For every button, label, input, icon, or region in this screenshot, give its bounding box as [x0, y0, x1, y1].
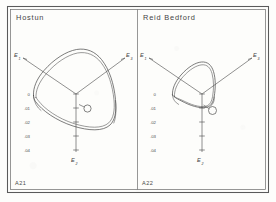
axis-label-e1-left: E — [14, 52, 18, 58]
figure-outer-frame — [8, 7, 269, 193]
panel-left-axis-labels: E 1 E 3 E 2 — [14, 52, 133, 166]
figure-plate: Hostun E 1 — [0, 0, 276, 202]
panel-left-tick-labels: 0 .01 .02 .03 .04 — [24, 92, 31, 153]
axis-label-e2-right: E — [197, 157, 201, 163]
panel-left: Hostun E 1 — [14, 13, 133, 186]
surface-inner-left — [36, 53, 114, 128]
axis-label-e2-left: E — [71, 157, 75, 163]
axis-label-e1-right: E — [140, 52, 144, 58]
origin-marker-leader-left — [79, 105, 84, 108]
tick-label-4-right: .04 — [150, 148, 157, 153]
axis-label-e3-right: E — [253, 52, 257, 58]
panel-right-tag: A22 — [142, 180, 153, 186]
tick-label-3-right: .03 — [150, 134, 157, 139]
axis-e3-line-left — [76, 58, 125, 94]
panel-right-axes — [149, 58, 252, 152]
figure-root: Hostun E 1 — [0, 0, 276, 202]
tick-label-4-left: .04 — [24, 148, 31, 153]
origin-marker-left — [84, 105, 91, 112]
panel-right-axis-labels: E 1 E 3 E 2 — [140, 52, 260, 166]
tick-label-1-left: .01 — [24, 106, 31, 111]
axis-sub-e3-left: 3 — [131, 57, 133, 61]
figure-inner-frame — [11, 10, 266, 190]
tick-label-2-right: .02 — [150, 120, 157, 125]
origin-marker-right — [209, 107, 217, 115]
axis-sub-e1-right: 1 — [145, 57, 147, 61]
axis-sub-e1-left: 1 — [19, 57, 21, 61]
axis-label-e3-left: E — [126, 52, 130, 58]
tick-label-3-left: .03 — [24, 134, 31, 139]
panel-left-title: Hostun — [16, 13, 44, 22]
panel-left-tag: A21 — [15, 180, 26, 186]
axis-sub-e2-right: 2 — [201, 162, 204, 166]
axis-e1-line-left — [23, 58, 76, 94]
tick-label-0-left: 0 — [28, 92, 31, 97]
tick-label-2-left: .02 — [24, 120, 31, 125]
axis-sub-e2-left: 2 — [75, 162, 78, 166]
tick-label-1-right: .01 — [150, 106, 157, 111]
panel-right-title: Reid Bedford — [143, 13, 196, 22]
axis-sub-e3-right: 3 — [258, 57, 260, 61]
panel-right: Reid Bedford E 1 E 3 E 2 — [140, 13, 260, 186]
surface-outer-right — [172, 62, 215, 108]
axis-e3-line-right — [202, 58, 252, 94]
panel-right-tick-labels: 0 .01 .02 .03 .04 — [150, 92, 157, 153]
tick-label-0-right: 0 — [154, 92, 157, 97]
surface-outer-left — [33, 49, 115, 130]
